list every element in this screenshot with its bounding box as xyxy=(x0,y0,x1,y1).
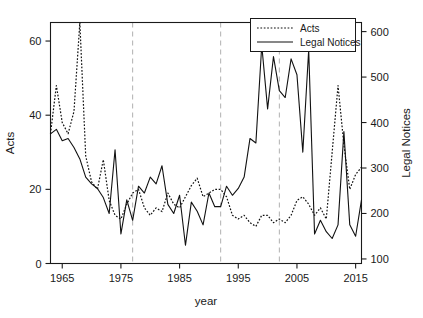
reference-lines xyxy=(133,23,280,264)
series-line-acts xyxy=(51,23,362,227)
y-left-tick-label-40: 40 xyxy=(29,109,41,121)
x-tick-label-1965: 1965 xyxy=(50,272,74,284)
y-axis-left-title: Acts xyxy=(4,132,16,155)
legend-label-legal-notices: Legal Notices xyxy=(300,37,361,48)
y-axis-left-ticks: 0204060 xyxy=(29,35,50,269)
x-tick-label-1975: 1975 xyxy=(109,272,133,284)
chart-figure: 196519751985199520052015 0204060 1002003… xyxy=(0,0,423,318)
x-axis-title: year xyxy=(195,295,218,307)
y-right-tick-label-500: 500 xyxy=(371,71,389,83)
x-tick-label-2015: 2015 xyxy=(343,272,367,284)
legend-label-acts: Acts xyxy=(300,23,319,34)
y-right-tick-label-200: 200 xyxy=(371,207,389,219)
y-axis-right-title: Legal Notices xyxy=(400,108,412,178)
y-axis-right-ticks: 100200300400500600 xyxy=(362,26,389,265)
series-group xyxy=(51,23,362,246)
line-chart: 196519751985199520052015 0204060 1002003… xyxy=(0,0,423,318)
y-right-tick-label-300: 300 xyxy=(371,162,389,174)
x-tick-label-1995: 1995 xyxy=(226,272,250,284)
y-left-tick-label-60: 60 xyxy=(29,35,41,47)
x-tick-label-2005: 2005 xyxy=(285,272,309,284)
y-right-tick-label-600: 600 xyxy=(371,26,389,38)
y-right-tick-label-100: 100 xyxy=(371,253,389,265)
y-right-tick-label-400: 400 xyxy=(371,117,389,129)
y-left-tick-label-20: 20 xyxy=(29,183,41,195)
legend: Acts Legal Notices xyxy=(251,19,361,52)
x-axis-ticks: 196519751985199520052015 xyxy=(50,264,368,284)
y-left-tick-label-0: 0 xyxy=(35,258,41,270)
x-tick-label-1985: 1985 xyxy=(167,272,191,284)
